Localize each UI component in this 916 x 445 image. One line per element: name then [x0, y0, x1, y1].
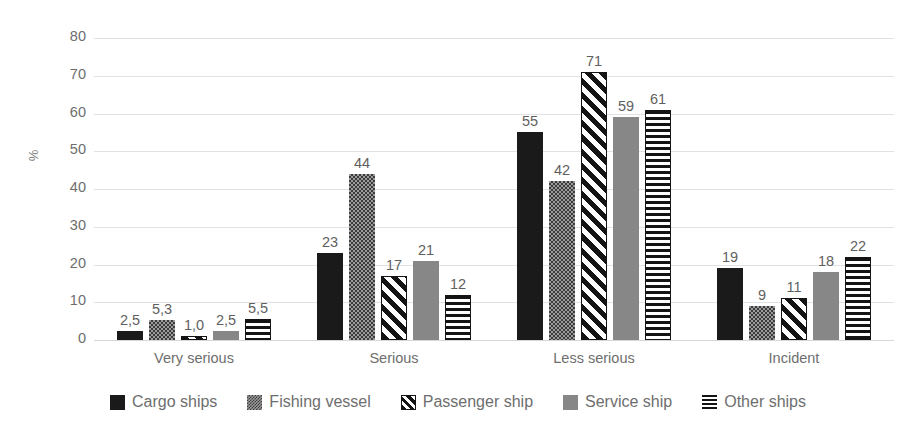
bar[interactable] — [549, 181, 575, 340]
legend-item-service-ship[interactable]: Service ship — [563, 393, 672, 411]
bar-group: 2,55,31,02,55,5 — [117, 38, 271, 340]
y-axis-tick-70: 70 — [50, 66, 86, 82]
legend-label: Cargo ships — [132, 393, 217, 411]
y-axis-tick-30: 30 — [50, 217, 86, 233]
bar-value-label: 42 — [539, 162, 585, 178]
legend-swatch-icon — [401, 395, 416, 410]
bar-value-label: 19 — [707, 249, 753, 265]
legend-item-fishing-vessel[interactable]: Fishing vessel — [247, 393, 370, 411]
bar-value-label: 18 — [803, 253, 849, 269]
bar-group: 5542715961 — [517, 38, 671, 340]
legend: Cargo shipsFishing vesselPassenger shipS… — [0, 393, 916, 411]
legend-item-passenger-ship[interactable]: Passenger ship — [401, 393, 533, 411]
bar[interactable] — [245, 319, 271, 340]
bar-group: 199111822 — [717, 38, 871, 340]
legend-label: Fishing vessel — [269, 393, 370, 411]
y-axis-tick-0: 0 — [50, 330, 86, 346]
x-axis-label-less-serious: Less serious — [494, 350, 694, 366]
plot-area: 2,55,31,02,55,52344172112554271596119911… — [94, 38, 894, 340]
bar-value-label: 55 — [507, 113, 553, 129]
bar-value-label: 21 — [403, 242, 449, 258]
y-axis-tick-80: 80 — [50, 28, 86, 44]
bar[interactable] — [645, 110, 671, 340]
y-axis-tick-50: 50 — [50, 141, 86, 157]
legend-swatch-icon — [702, 395, 717, 410]
bar-group: 2344172112 — [317, 38, 471, 340]
gridline-0 — [94, 340, 894, 341]
legend-label: Other ships — [724, 393, 806, 411]
legend-item-cargo-ships[interactable]: Cargo ships — [110, 393, 217, 411]
bar[interactable] — [613, 117, 639, 340]
legend-swatch-icon — [247, 395, 262, 410]
y-axis-tick-60: 60 — [50, 104, 86, 120]
bar[interactable] — [181, 336, 207, 340]
x-axis-label-incident: Incident — [694, 350, 894, 366]
bar[interactable] — [717, 268, 743, 340]
bar-value-label: 17 — [371, 257, 417, 273]
x-axis-label-serious: Serious — [294, 350, 494, 366]
bar-value-label: 5,3 — [139, 301, 185, 317]
legend-label: Passenger ship — [423, 393, 533, 411]
x-axis-label-very-serious: Very serious — [94, 350, 294, 366]
bar-value-label: 11 — [771, 279, 817, 295]
y-axis-title: % — [26, 150, 41, 162]
legend-item-other-ships[interactable]: Other ships — [702, 393, 806, 411]
legend-swatch-icon — [563, 395, 578, 410]
bar[interactable] — [845, 257, 871, 340]
bar-value-label: 12 — [435, 276, 481, 292]
bar[interactable] — [117, 331, 143, 340]
bar-value-label: 23 — [307, 234, 353, 250]
y-axis-tick-20: 20 — [50, 255, 86, 271]
y-axis-tick-40: 40 — [50, 179, 86, 195]
bar[interactable] — [813, 272, 839, 340]
legend-label: Service ship — [585, 393, 672, 411]
bar[interactable] — [781, 298, 807, 340]
bar[interactable] — [445, 295, 471, 340]
bar[interactable] — [317, 253, 343, 340]
y-axis-tick-10: 10 — [50, 292, 86, 308]
legend-swatch-icon — [110, 395, 125, 410]
bar[interactable] — [749, 306, 775, 340]
bar-value-label: 61 — [635, 91, 681, 107]
bar[interactable] — [413, 261, 439, 340]
bar-value-label: 22 — [835, 238, 881, 254]
bar[interactable] — [213, 331, 239, 340]
bar-chart: % 01020304050607080 2,55,31,02,55,523441… — [0, 0, 916, 445]
bar-value-label: 44 — [339, 155, 385, 171]
bar[interactable] — [381, 276, 407, 340]
bar-value-label: 5,5 — [235, 300, 281, 316]
bar-value-label: 71 — [571, 53, 617, 69]
